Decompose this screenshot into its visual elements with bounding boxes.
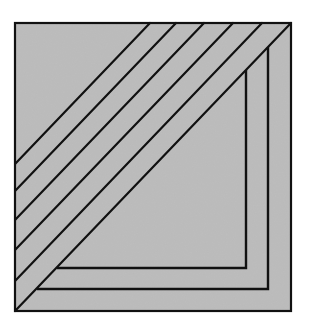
diagonal-square-diagram [0,0,310,333]
